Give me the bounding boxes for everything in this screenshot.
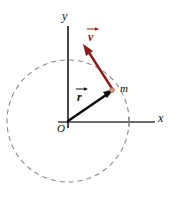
position-vector-arrow	[68, 89, 114, 121]
origin-label: O	[57, 123, 65, 134]
y-axis-label: y	[62, 10, 67, 22]
vector-arrow-overbar-v	[87, 27, 95, 31]
vector-arrow-overbar-r	[76, 87, 84, 91]
particle-marker	[110, 88, 115, 93]
position-vector-label-text: r	[77, 90, 82, 104]
physics-diagram: y x O m r v	[0, 0, 173, 197]
x-axis-label: x	[158, 112, 163, 124]
velocity-vector-label-text: v	[88, 30, 93, 44]
position-vector-label: r	[77, 88, 82, 104]
velocity-vector-label: v	[88, 28, 93, 44]
velocity-vector-arrow	[83, 44, 113, 90]
particle-label: m	[120, 83, 128, 94]
